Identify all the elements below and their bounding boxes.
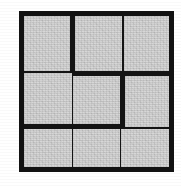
grid-cell-row3-col2 [73, 129, 120, 167]
grid-cell-row2-col1 [24, 73, 72, 124]
grid-cell-row3-col1 [24, 129, 72, 167]
grid-inner-area [24, 16, 169, 167]
grid-cell-row1-col1 [24, 16, 70, 71]
grid-outer-frame [19, 11, 174, 172]
grid-cell-row3-col3 [121, 129, 169, 167]
grid-cell-row1-col3 [124, 16, 169, 71]
grid-cell-row2-col3 [125, 76, 169, 127]
grid-cell-row2-col2 [73, 76, 120, 124]
grid-cell-row1-col2 [75, 16, 122, 71]
grid-figure [0, 0, 181, 186]
